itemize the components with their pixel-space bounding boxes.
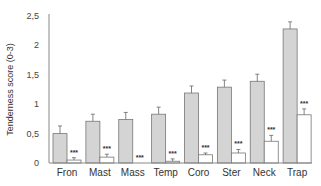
bar-chart: 00,511,522,5 Tenderness score (0-3) ****… xyxy=(0,0,321,186)
bar-white xyxy=(199,155,213,163)
bar-gray xyxy=(217,87,231,163)
y-tick-label: 0,5 xyxy=(26,129,39,139)
x-tick-label: Coro xyxy=(188,167,210,178)
significance-marker: *** xyxy=(169,150,177,157)
bar-gray xyxy=(86,121,100,163)
x-axis: FronMastMassTempCoroSterNeckTrap xyxy=(49,163,312,178)
significance-marker: *** xyxy=(136,154,144,161)
bar-gray xyxy=(152,114,166,163)
x-tick-label: Fron xyxy=(57,167,78,178)
x-tick-label: Mast xyxy=(89,167,111,178)
bars: ************************ xyxy=(53,22,311,163)
bar-group-temp: *** xyxy=(152,107,180,163)
bar-white xyxy=(297,115,311,163)
bar-gray xyxy=(185,93,199,163)
bar-gray xyxy=(283,29,297,163)
x-tick-label: Mass xyxy=(121,167,145,178)
bar-gray xyxy=(250,81,264,163)
bar-white xyxy=(100,157,114,163)
y-axis-label: Tenderness score (0-3) xyxy=(5,43,15,136)
significance-marker: *** xyxy=(300,100,308,107)
y-axis-title: Tenderness score (0-3) xyxy=(5,43,15,136)
y-tick-label: 1 xyxy=(34,99,39,109)
significance-marker: *** xyxy=(234,140,242,147)
bar-gray xyxy=(119,119,133,163)
y-axis: 00,511,522,5 xyxy=(26,11,49,168)
bar-group-coro: *** xyxy=(185,86,213,163)
x-tick-label: Trap xyxy=(287,167,308,178)
bar-group-mass: *** xyxy=(119,112,144,163)
bar-white xyxy=(264,141,278,163)
x-tick-label: Ster xyxy=(222,167,241,178)
bar-white xyxy=(231,153,245,163)
bar-group-trap: *** xyxy=(283,22,311,163)
y-tick-label: 2,5 xyxy=(26,11,39,21)
y-tick-label: 0 xyxy=(34,158,39,168)
bar-group-fron: *** xyxy=(53,126,81,163)
significance-marker: *** xyxy=(201,144,209,151)
y-tick-label: 1,5 xyxy=(26,70,39,80)
significance-marker: *** xyxy=(70,149,78,156)
bar-group-mast: *** xyxy=(86,114,114,163)
bar-group-neck: *** xyxy=(250,74,278,163)
y-tick-label: 2 xyxy=(34,40,39,50)
bar-gray xyxy=(53,134,67,163)
bar-group-ster: *** xyxy=(217,80,245,163)
x-tick-label: Neck xyxy=(253,167,277,178)
significance-marker: *** xyxy=(103,145,111,152)
x-tick-label: Temp xyxy=(153,167,178,178)
significance-marker: *** xyxy=(267,126,275,133)
